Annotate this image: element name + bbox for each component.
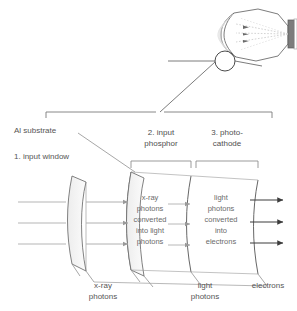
- electron-exit-arrows: [250, 200, 283, 243]
- incoming-xray-arrows: [18, 202, 66, 244]
- section-2-line-1: 2. input: [144, 128, 177, 139]
- light-photons-bottom-label: light photons: [191, 281, 219, 302]
- photocathode-process-line-1: light: [205, 192, 238, 203]
- intensifier-tube-illustration: [218, 9, 297, 61]
- photocathode-process-line-2: photons: [205, 203, 238, 214]
- section-brackets: [131, 161, 258, 168]
- diagram-canvas: Al substrate 1. input window 2. input ph…: [0, 0, 297, 311]
- xray-photons-bottom-label: x-ray photons: [89, 281, 117, 302]
- phosphor-process-line-4: into light: [134, 225, 167, 236]
- photocathode-process-text: light photons converted into electrons: [205, 192, 238, 247]
- section-3-line-2: cathode: [211, 139, 243, 150]
- overview-bracket: [46, 112, 272, 118]
- xray-photons-line-2: photons: [89, 292, 117, 303]
- photocathode-process-line-5: electrons: [205, 236, 238, 247]
- photocathode-process-line-4: into: [205, 225, 238, 236]
- section-2-line-2: phosphor: [144, 139, 177, 150]
- al-substrate-leader: [78, 133, 135, 172]
- photocathode-process-line-3: converted: [205, 214, 238, 225]
- section-1-label: 1. input window: [14, 152, 69, 163]
- light-photons-line-1: light: [191, 281, 219, 292]
- window-to-phosphor-arrows: [86, 202, 128, 244]
- phosphor-process-line-1: x-ray: [134, 192, 167, 203]
- section-3-label: 3. photo- cathode: [211, 128, 243, 149]
- phosphor-process-line-5: photons: [134, 236, 167, 247]
- xray-photons-line-1: x-ray: [89, 281, 117, 292]
- callout-circle-group: [160, 51, 262, 112]
- section-3-line-1: 3. photo-: [211, 128, 243, 139]
- electrons-line-1: electrons: [252, 281, 284, 292]
- phosphor-process-line-2: photons: [134, 203, 167, 214]
- electrons-bottom-label: electrons: [252, 281, 284, 292]
- input-window-plate: [68, 176, 87, 271]
- light-photons-line-2: photons: [191, 292, 219, 303]
- section-2-label: 2. input phosphor: [144, 128, 177, 149]
- phosphor-process-line-3: converted: [134, 214, 167, 225]
- phosphor-process-text: x-ray photons converted into light photo…: [134, 192, 167, 247]
- al-substrate-label: Al substrate: [14, 126, 56, 137]
